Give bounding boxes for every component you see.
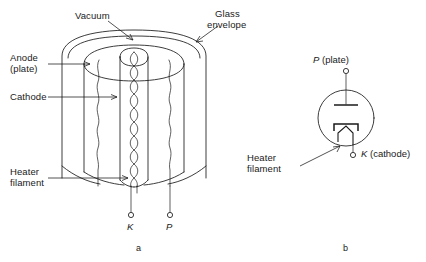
heater-filament-symbol bbox=[338, 126, 353, 145]
heater-filament-helix bbox=[130, 52, 138, 187]
label-cathode-symbol-group: K (cathode) bbox=[361, 148, 410, 159]
caption-b: b bbox=[343, 243, 348, 253]
label-heater-filament-line1-b: Heater bbox=[247, 152, 276, 164]
panel-b-heater-leader bbox=[300, 146, 340, 166]
label-cathode: Cathode bbox=[10, 91, 47, 103]
terminal-label-k: K bbox=[127, 221, 133, 232]
label-anode-line1: Anode bbox=[10, 52, 38, 64]
cathode-terminal-circle bbox=[350, 152, 355, 157]
label-vacuum: Vacuum bbox=[75, 10, 110, 22]
panel-a-drawing bbox=[48, 21, 218, 218]
label-heater-filament-line1-a: Heater bbox=[10, 166, 39, 178]
label-anode-line2: (plate) bbox=[10, 63, 38, 75]
label-glass-envelope-line2: envelope bbox=[207, 19, 246, 31]
terminal-k-circle bbox=[128, 212, 133, 217]
label-plate-symbol-group: P (plate) bbox=[313, 54, 349, 65]
panel-a-leads bbox=[131, 186, 170, 212]
caption-a: a bbox=[136, 243, 141, 253]
cathode-cylinder-shape bbox=[120, 48, 148, 187]
label-glass-envelope-line1: Glass bbox=[215, 8, 240, 20]
label-heater-filament-line2-b: filament bbox=[247, 163, 281, 175]
terminal-label-p: P bbox=[166, 221, 172, 232]
label-plate-text: (plate) bbox=[319, 54, 349, 65]
figure-root: Vacuum Glass envelope Anode (plate) Cath… bbox=[0, 0, 426, 262]
cathode-bracket bbox=[334, 124, 358, 131]
label-cathode-text: (cathode) bbox=[367, 148, 410, 159]
terminal-p-circle bbox=[167, 212, 172, 217]
label-heater-filament-line2-a: filament bbox=[10, 177, 44, 189]
plate-terminal-circle bbox=[343, 68, 348, 73]
diagram-canvas bbox=[0, 0, 426, 262]
